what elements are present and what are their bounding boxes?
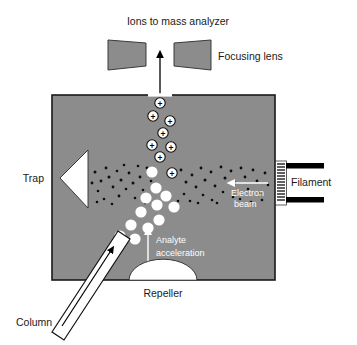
ion-charge-glyph: + xyxy=(170,169,175,179)
ion-charge-glyph: + xyxy=(150,141,155,151)
ion-particle: + xyxy=(155,98,165,109)
ei-source-schematic: Ions to mass analyzer Focusing lens Trap xyxy=(0,0,357,345)
label-filament: Filament xyxy=(291,176,331,188)
ion-charge-glyph: + xyxy=(168,117,173,127)
label-repeller: Repeller xyxy=(143,287,183,299)
label-trap: Trap xyxy=(23,172,44,184)
ion-charge-glyph: + xyxy=(158,99,163,109)
ion-particle: + xyxy=(155,152,165,163)
ion-charge-glyph: + xyxy=(151,112,156,122)
focusing-lens-plate-right xyxy=(174,40,211,70)
title-ions-to-mass-analyzer: Ions to mass analyzer xyxy=(127,15,230,27)
label-analyte-acceleration-line1: Analyte xyxy=(156,235,186,245)
ion-charge-glyph: + xyxy=(158,153,163,163)
ion-particle: + xyxy=(166,142,176,153)
filament-lead-top xyxy=(286,163,324,169)
ion-particle: + xyxy=(148,111,158,122)
focusing-lens-plate-left xyxy=(108,40,146,70)
ion-particle: + xyxy=(165,116,175,127)
ion-charge-glyph: + xyxy=(169,143,174,153)
label-analyte-acceleration-line2: acceleration xyxy=(156,248,205,258)
label-focusing-lens: Focusing lens xyxy=(218,50,283,62)
diagram-canvas: Ions to mass analyzer Focusing lens Trap xyxy=(0,0,357,345)
ion-particle: + xyxy=(167,168,177,179)
ion-charge-glyph: + xyxy=(161,129,166,139)
ion-particle: + xyxy=(147,140,157,151)
label-electron-beam-line2: beam xyxy=(234,199,257,209)
label-electron-beam-line1: Electron xyxy=(231,188,264,198)
chamber-exit-slit xyxy=(148,93,172,96)
label-column: Column xyxy=(16,316,52,328)
filament-coil xyxy=(277,164,285,200)
ion-particle: + xyxy=(158,128,168,139)
filament-lead-bottom xyxy=(286,197,324,203)
